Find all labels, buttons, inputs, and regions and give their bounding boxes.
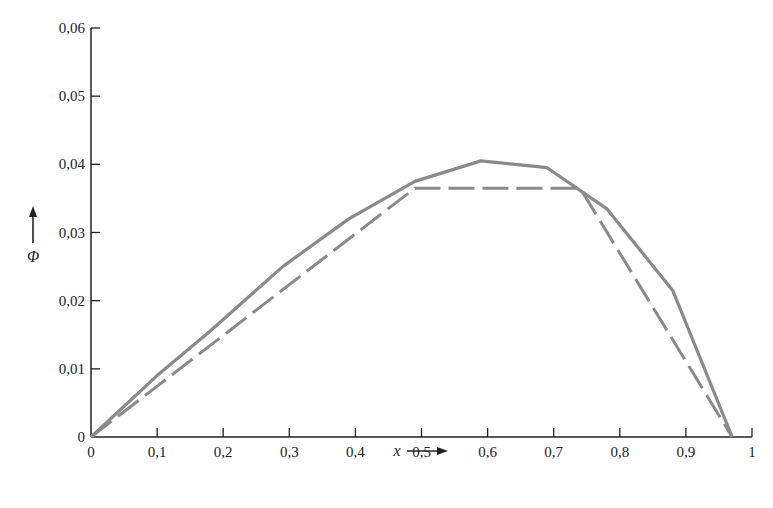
y-tick-label: 0,01: [59, 361, 85, 377]
y-tick-label: 0,05: [59, 88, 85, 104]
y-tick-label: 0,04: [59, 156, 86, 172]
x-tick-label: 0,9: [677, 444, 696, 460]
x-tick-label: 0: [87, 444, 95, 460]
y-tick-label: 0: [78, 429, 86, 445]
series-layer: [91, 161, 732, 437]
y-arrowhead-icon: [29, 206, 37, 217]
y-axis-title: Φ: [27, 248, 39, 265]
series-solid: [91, 161, 732, 437]
y-tick-label: 0,06: [59, 20, 86, 36]
x-tick-label: 0,7: [544, 444, 563, 460]
x-tick-label: 0,1: [148, 444, 167, 460]
x-tick-label: 0,8: [610, 444, 629, 460]
y-tick-label: 0,03: [59, 225, 85, 241]
x-tick-label: 0,5: [412, 444, 431, 460]
x-axis-title: x: [392, 442, 400, 459]
y-tick-label: 0,02: [59, 293, 85, 309]
chart: 00,10,20,30,40,50,60,70,80,9100,010,020,…: [0, 0, 773, 508]
x-tick-label: 0,3: [280, 444, 299, 460]
x-tick-label: 0,2: [214, 444, 233, 460]
x-tick-label: 1: [748, 444, 756, 460]
x-tick-label: 0,6: [478, 444, 497, 460]
series-dashed: [91, 188, 732, 437]
x-arrowhead-icon: [437, 447, 448, 455]
axes: [91, 28, 752, 437]
x-tick-label: 0,4: [346, 444, 365, 460]
